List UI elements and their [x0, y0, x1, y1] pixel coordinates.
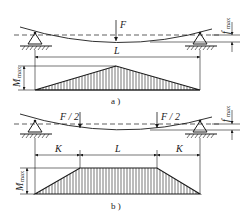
deflection-dimension: f max [150, 17, 240, 52]
caption-b: b ) [111, 201, 121, 211]
caption-a: a ) [111, 96, 120, 106]
moment-subscript: max [15, 66, 22, 78]
figure-a: F f max L M max [11, 17, 240, 106]
span-right-label: K [175, 143, 184, 154]
deflection-label: f [220, 30, 231, 34]
figure-b: F / 2 F / 2 f max K L K [14, 105, 240, 211]
pin-support-left-icon [20, 120, 52, 138]
span-dimension-chain: K L K [35, 143, 200, 155]
deflection-subscript: max [224, 17, 231, 29]
span-left-label: K [54, 143, 63, 154]
deflected-beam [20, 114, 212, 130]
load-left-label: F / 2 [59, 111, 79, 122]
load-label: F [119, 19, 127, 30]
deflection-subscript: max [224, 105, 231, 117]
moment-label: M [11, 78, 22, 88]
moment-diagram-trapezoid [35, 168, 200, 194]
load-right-label: F / 2 [160, 111, 180, 122]
moment-subscript: max [18, 170, 25, 182]
span-label: L [113, 45, 120, 56]
moment-diagram-triangle [35, 66, 200, 90]
span-mid-label: L [114, 143, 121, 154]
moment-label: M [14, 182, 25, 192]
deflection-label: f [220, 118, 231, 122]
beam-diagrams: F f max L M max [0, 0, 246, 219]
